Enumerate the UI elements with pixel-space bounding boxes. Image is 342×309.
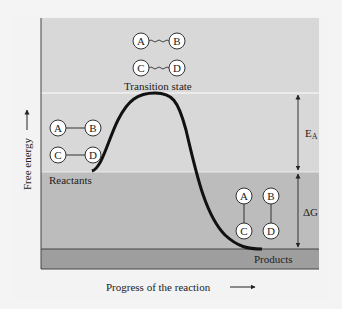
svg-text:D: D	[267, 225, 275, 237]
svg-text:C: C	[137, 62, 144, 74]
svg-text:D: D	[89, 149, 97, 161]
delta-g-label: ΔG	[303, 206, 318, 218]
svg-text:Free energy: Free energy	[21, 137, 33, 190]
svg-text:C: C	[240, 225, 247, 237]
energy-diagram: A B C D Transition state A B C D Reactan…	[0, 0, 342, 309]
svg-text:A: A	[137, 35, 145, 47]
svg-text:A: A	[54, 122, 62, 134]
svg-text:B: B	[89, 122, 96, 134]
svg-text:B: B	[173, 35, 180, 47]
reactants-label: Reactants	[49, 174, 92, 186]
products-label: Products	[254, 253, 293, 265]
svg-text:Progress of the reaction: Progress of the reaction	[106, 281, 211, 293]
svg-text:D: D	[173, 62, 181, 74]
x-axis-label: Progress of the reaction	[106, 281, 255, 293]
y-axis-label: Free energy	[21, 110, 33, 190]
svg-text:B: B	[267, 190, 274, 202]
svg-text:A: A	[240, 190, 248, 202]
svg-text:C: C	[54, 149, 61, 161]
transition-state-label: Transition state	[124, 80, 192, 92]
